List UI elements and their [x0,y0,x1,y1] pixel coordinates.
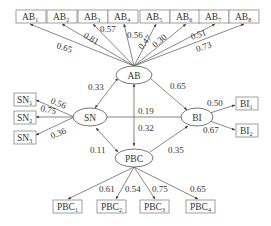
svg-text:0.75: 0.75 [152,184,168,194]
svg-text:0.32: 0.32 [138,123,154,133]
indicator-sn3: SN3 [14,131,36,144]
svg-text:AB: AB [127,71,140,81]
indicator-pbc2: PBC2 [97,200,126,213]
svg-text:0.61: 0.61 [99,184,115,194]
latent-sn: SN [73,108,107,126]
indicator-sn2: SN2 [14,111,36,124]
svg-text:0.50: 0.50 [207,98,223,108]
indicator-bi2: BI2 [236,124,258,137]
latent-bi: BI [181,108,213,126]
indicator-pbc3: PBC3 [140,200,169,213]
svg-text:PBC1: PBC1 [57,202,78,213]
indicator-ab8: AB8 [229,10,259,23]
ab-indicators: AB1 AB2 AB3 AB4 AB5 AB6 AB7 AB8 [16,10,259,23]
svg-text:PBC3: PBC3 [144,202,165,213]
svg-text:0.54: 0.54 [125,184,141,194]
pbc-indicators: PBC1 PBC2 PBC3 PBC4 0.61 0.54 0.75 0.65 [53,184,215,213]
svg-text:0.81: 0.81 [82,30,101,47]
indicator-ab3: AB3 [78,10,108,23]
ab-loadings: 0.65 0.81 0.57 0.56 0.47 0.30 0.51 0.73 [55,24,213,55]
svg-text:0.30: 0.30 [150,32,169,50]
svg-text:PBC2: PBC2 [101,202,122,213]
svg-text:SN: SN [84,113,96,123]
svg-text:0.67: 0.67 [203,125,219,135]
indicator-ab6: AB6 [170,10,200,23]
svg-text:BI: BI [192,113,202,123]
indicator-ab7: AB7 [199,10,229,23]
svg-text:PBC: PBC [125,154,143,164]
svg-text:0.65: 0.65 [170,81,186,91]
svg-text:0.65: 0.65 [55,40,74,55]
latent-pbc: PBC [115,149,153,167]
indicator-sn1: SN1 [14,93,36,106]
sn-indicators: SN1 SN2 SN3 0.56 0.75 0.36 [14,93,68,144]
latent-ab: AB [116,66,152,84]
svg-text:PBC4: PBC4 [190,202,211,213]
indicator-ab2: AB2 [47,10,77,23]
indicator-pbc1: PBC1 [53,200,82,213]
svg-text:0.75: 0.75 [40,103,58,116]
indicator-bi1: BI1 [236,97,258,110]
svg-text:0.65: 0.65 [190,184,206,194]
pbc-indicator-paths [68,167,198,199]
indicator-ab1: AB1 [16,10,46,23]
svg-text:0.57: 0.57 [100,24,116,34]
sem-diagram: AB1 AB2 AB3 AB4 AB5 AB6 AB7 AB8 0.65 0.8… [0,0,271,226]
indicator-pbc4: PBC4 [186,200,215,213]
svg-text:0.33: 0.33 [88,82,104,92]
svg-text:0.11: 0.11 [90,145,105,155]
svg-text:0.51: 0.51 [189,27,207,42]
svg-text:0.19: 0.19 [138,106,154,116]
indicator-ab5: AB5 [140,10,170,23]
svg-text:0.35: 0.35 [168,145,184,155]
indicator-ab4: AB4 [108,10,138,23]
